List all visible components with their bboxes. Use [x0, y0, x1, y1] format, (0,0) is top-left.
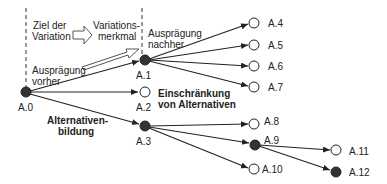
label-a2: A.2 — [136, 102, 151, 113]
node-a9 — [250, 140, 260, 150]
label-a0: A.0 — [18, 102, 33, 113]
merkmal-label-1: Variations- — [93, 20, 140, 31]
ziel-label-2: Variation — [32, 31, 71, 42]
node-a3 — [140, 121, 150, 131]
node-a5 — [249, 40, 259, 50]
node-a8 — [249, 119, 259, 129]
node-a4 — [249, 18, 259, 28]
decision-tree-diagram: A.0 A.1 A.2 A.3 A.4 A.5 A.6 A.7 A.8 A.9 … — [0, 0, 387, 184]
node-a7 — [249, 82, 259, 92]
vorher-label-1: Ausprägung — [32, 65, 86, 76]
hollow-arrow-icon — [73, 26, 92, 44]
vorher-label-2: vorher — [32, 76, 61, 87]
hollow-diagonal-arrow-icon — [82, 49, 139, 70]
ziel-label-1: Ziel der — [33, 20, 67, 31]
node-a6 — [249, 61, 259, 71]
label-a1: A.1 — [136, 70, 151, 81]
nachher-label-1: Ausprägung — [148, 28, 202, 39]
label-a8: A.8 — [264, 116, 279, 127]
label-a5: A.5 — [268, 40, 283, 51]
label-a6: A.6 — [268, 61, 283, 72]
label-a4: A.4 — [268, 18, 283, 29]
label-a10: A.10 — [262, 164, 283, 175]
node-a1 — [140, 55, 150, 65]
node-a2 — [140, 87, 150, 97]
merkmal-label-2: merkmal — [98, 31, 136, 42]
label-a9: A.9 — [264, 135, 279, 146]
label-a3: A.3 — [136, 136, 151, 147]
node-a0 — [21, 87, 31, 97]
label-a12: A.12 — [349, 167, 370, 178]
einschraenkung-label-1: Einschränkung — [158, 88, 230, 99]
einschraenkung-label-2: von Alternativen — [158, 99, 236, 110]
label-a11: A.11 — [349, 146, 369, 157]
node-a10 — [249, 164, 259, 174]
nachher-label-2: nachher — [148, 39, 185, 50]
label-a7: A.7 — [268, 82, 283, 93]
node-a12 — [331, 167, 341, 177]
bildung-label-2: bildung — [58, 126, 94, 137]
node-a11 — [331, 145, 341, 155]
bildung-label-1: Alternativen- — [47, 115, 108, 126]
